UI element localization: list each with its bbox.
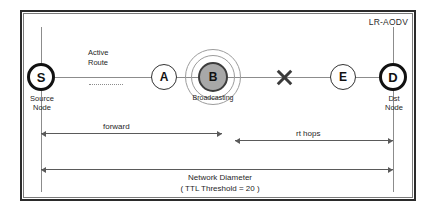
lr-aodv-diagram: LR-AODV S A B E D Source Node Broadcasti… — [0, 0, 436, 217]
caption-broadcasting: Broadcasting — [181, 94, 245, 103]
diagram-inner-frame — [23, 13, 413, 198]
node-e[interactable]: E — [330, 64, 356, 90]
caption-destination-node: Dst Node — [369, 94, 419, 113]
legend-active-route-line1: Active — [88, 48, 108, 58]
link-break-x-icon — [275, 68, 294, 87]
network-diameter-line1: Network Diameter — [44, 173, 396, 184]
node-destination-d[interactable]: D — [379, 63, 407, 91]
node-broadcasting-b[interactable]: B — [198, 62, 228, 92]
node-a[interactable]: A — [151, 64, 177, 90]
measure-arrow-rt-hops — [235, 140, 393, 141]
caption-source-node: Source Node — [17, 94, 67, 113]
legend-active-route-line2: Route — [88, 58, 108, 68]
node-source-s[interactable]: S — [27, 63, 55, 91]
measure-arrow-network-diameter — [41, 169, 393, 170]
measure-label-forward: forward — [100, 122, 133, 131]
legend-active-route: Active Route — [88, 48, 108, 68]
caption-source-line1: Source — [17, 94, 67, 103]
network-diameter-line2: ( TTL Threshold = 20 ) — [44, 184, 396, 195]
caption-dst-line1: Dst — [369, 94, 419, 103]
caption-dst-line2: Node — [369, 103, 419, 112]
diagram-title: LR-AODV — [369, 17, 408, 27]
caption-source-line2: Node — [17, 103, 67, 112]
measure-label-rt-hops: rt hops — [293, 129, 323, 138]
measure-arrow-forward — [41, 133, 222, 134]
legend-dotted-line-sample — [89, 84, 123, 86]
measure-label-network-diameter: Network Diameter ( TTL Threshold = 20 ) — [41, 173, 399, 195]
